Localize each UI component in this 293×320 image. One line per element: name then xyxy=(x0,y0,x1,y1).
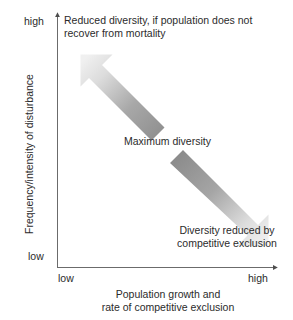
y-axis-high-label: high xyxy=(24,15,44,27)
x-axis-low-label: low xyxy=(58,272,74,284)
annotation-bottom-line2: competitive exclusion xyxy=(177,237,277,249)
x-axis-title-line2: rate of competitive exclusion xyxy=(102,301,234,313)
diagram-figure: high low low high Frequency/intensity of… xyxy=(0,0,293,320)
x-axis-title-line1: Population growth and xyxy=(116,288,221,300)
x-axis-title: Population growth and rate of competitiv… xyxy=(57,288,279,313)
x-axis-high-label: high xyxy=(248,272,268,284)
annotation-bottom-line1: Diversity reduced by xyxy=(179,224,274,236)
annotation-maximum-diversity: Maximum diversity xyxy=(124,135,264,148)
annotation-diversity-competitive-exclusion: Diversity reduced by competitive exclusi… xyxy=(163,224,291,250)
y-axis-title: Frequency/intensity of disturbance xyxy=(23,59,35,249)
annotation-reduced-diversity-mortality: Reduced diversity, if population does no… xyxy=(64,14,289,40)
y-axis-low-label: low xyxy=(28,250,44,262)
